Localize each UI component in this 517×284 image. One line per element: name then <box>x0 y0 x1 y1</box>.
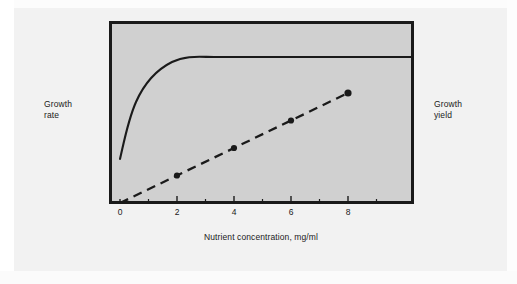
data-point-x8 <box>344 89 351 96</box>
plot-frame <box>111 23 413 203</box>
data-point-x6 <box>288 117 294 123</box>
x-axis-title: Nutrient concentration, mg/ml <box>109 232 413 242</box>
x-tick-label-8: 8 <box>338 207 358 217</box>
figure-container: Growth rate Growth yield 0 2 4 6 8 Nutri… <box>0 0 517 284</box>
growth-yield-axis-label: Growth yield <box>434 99 462 120</box>
x-tick-label-6: 6 <box>281 207 301 217</box>
x-tick-label-0: 0 <box>110 207 130 217</box>
data-point-x4 <box>231 145 237 151</box>
data-point-x2 <box>174 172 180 178</box>
growth-rate-axis-label: Growth rate <box>44 99 72 120</box>
x-tick-label-2: 2 <box>167 207 187 217</box>
x-tick-label-4: 4 <box>224 207 244 217</box>
